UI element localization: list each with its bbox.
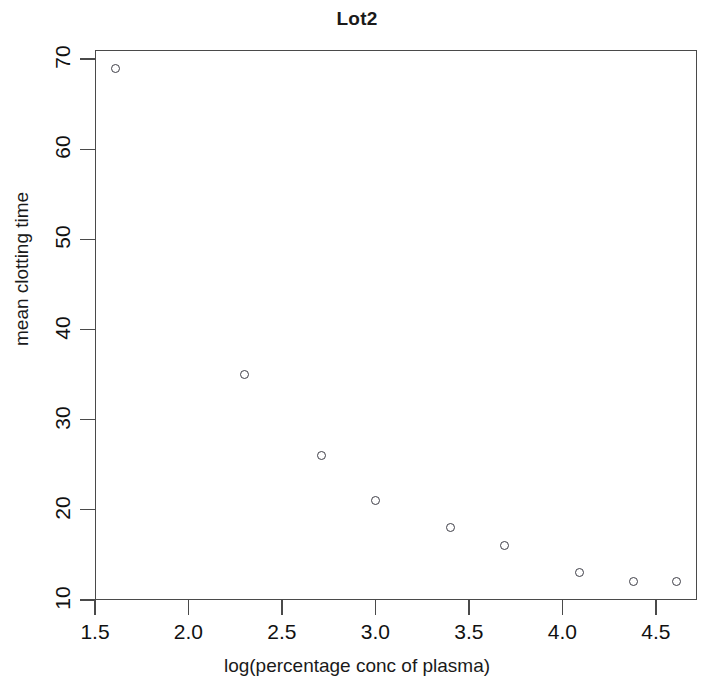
y-axis-tick: [80, 419, 95, 420]
x-axis-tick: [468, 600, 469, 615]
y-axis-tick-label-text: 60: [50, 135, 74, 158]
x-axis-tick: [375, 600, 376, 615]
chart-title: Lot2: [0, 8, 714, 30]
x-axis-tick-label: 3.0: [340, 620, 410, 644]
x-axis-tick-label: 1.5: [60, 620, 130, 644]
y-axis-tick-label: 70: [0, 45, 74, 69]
y-axis-tick-label-text: 20: [50, 496, 74, 519]
y-axis-title: mean clotting time: [11, 302, 33, 346]
plot-area: [95, 50, 697, 600]
y-axis-tick-label: 20: [0, 496, 74, 520]
y-axis-tick-label: 30: [0, 406, 74, 430]
x-axis-tick: [281, 600, 282, 615]
x-axis-tick-label: 4.5: [621, 620, 691, 644]
y-axis-tick-label-text: 30: [50, 406, 74, 429]
scatter-plot-figure: Lot2 102030405060701.52.02.53.03.54.04.5…: [0, 0, 714, 698]
y-axis-tick: [80, 599, 95, 600]
y-axis-tick: [80, 149, 95, 150]
x-axis-tick: [655, 600, 656, 615]
x-axis-tick: [188, 600, 189, 615]
y-axis-tick-label-text: 40: [50, 316, 74, 339]
x-axis-tick-label: 2.5: [247, 620, 317, 644]
x-axis-title: log(percentage conc of plasma): [0, 655, 714, 677]
y-axis-tick-label-text: 70: [50, 45, 74, 68]
x-axis-tick: [94, 600, 95, 615]
y-axis-tick: [80, 239, 95, 240]
x-axis-tick-label: 4.0: [527, 620, 597, 644]
x-axis-tick-label: 2.0: [153, 620, 223, 644]
y-axis-tick: [80, 329, 95, 330]
y-axis-tick: [80, 58, 95, 59]
y-axis-tick: [80, 509, 95, 510]
y-axis-tick-label: 60: [0, 135, 74, 159]
y-axis-tick-label-text: 10: [50, 586, 74, 609]
y-axis-tick-label: 10: [0, 586, 74, 610]
x-axis-tick: [562, 600, 563, 615]
y-axis-tick-label-text: 50: [50, 226, 74, 249]
x-axis-tick-label: 3.5: [434, 620, 504, 644]
